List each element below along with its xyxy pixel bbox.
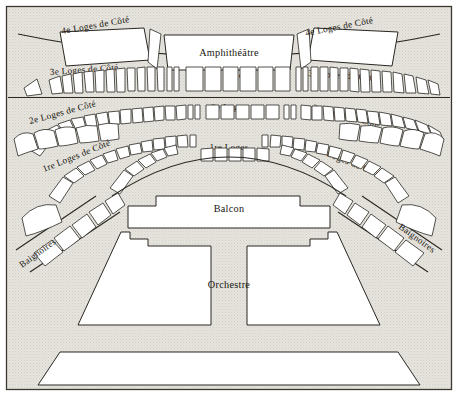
seat-box (153, 138, 165, 150)
seat-box (229, 148, 241, 161)
seat-box (84, 71, 94, 92)
seat-box (360, 69, 370, 92)
seat-box (266, 105, 279, 119)
seat-box (311, 67, 318, 91)
seat-box (330, 67, 338, 91)
seat-box (367, 111, 380, 125)
seat-box (236, 105, 249, 119)
seat-box (177, 135, 188, 147)
seat-box (186, 67, 203, 91)
seat-box (291, 105, 296, 119)
seat-box (106, 69, 115, 92)
balcon-group: Balcon (128, 196, 330, 228)
seat-box (147, 67, 155, 91)
seat-box (174, 67, 179, 91)
seat-box (190, 135, 196, 147)
seat-box (116, 68, 125, 92)
seat-box (262, 135, 268, 147)
seat-box (284, 105, 289, 119)
seat-box (345, 108, 357, 122)
seat-box (275, 67, 290, 91)
seat-box (296, 67, 301, 91)
theatre-seating-plan: 4e Loges de Côté Amphithéâtre 4e Loges d… (0, 0, 458, 396)
seat-box (270, 135, 281, 147)
seat-box (334, 107, 345, 121)
seat-box (195, 105, 200, 119)
label-balcon: Balcon (214, 203, 245, 214)
label-orchestre: Orchestre (208, 279, 250, 290)
seat-box (380, 127, 403, 146)
seat-box (251, 105, 264, 119)
seat-box (240, 67, 256, 91)
seat-box (76, 125, 99, 143)
seat-box (301, 105, 311, 120)
seat-box (339, 123, 360, 141)
seat-box (206, 105, 219, 119)
seat-box (316, 143, 329, 155)
seat-box (221, 105, 234, 119)
seat-box (223, 67, 238, 91)
seat-box (188, 105, 193, 119)
seat-box (393, 72, 404, 93)
seat-box (382, 71, 392, 92)
seat-box (98, 123, 119, 141)
seat-box (55, 127, 78, 146)
seat-box (359, 125, 382, 143)
seat-box (323, 106, 334, 121)
seat-box (258, 67, 273, 91)
seat-box (371, 70, 381, 92)
seat-box (143, 107, 154, 122)
seat-box (379, 112, 392, 126)
seat-box (356, 109, 368, 123)
seat-box (137, 67, 145, 91)
plan-canvas: 4e Loges de Côté Amphithéâtre 4e Loges d… (0, 0, 458, 396)
stage-group (38, 352, 420, 385)
seat-box (340, 68, 348, 91)
seat-box (350, 68, 359, 92)
seat-box (132, 108, 143, 123)
seat-box (141, 140, 153, 152)
seat-box (176, 105, 186, 120)
seat-box (129, 143, 142, 155)
seat-box (205, 67, 221, 91)
seat-box (303, 67, 308, 91)
seat-box (120, 109, 131, 124)
block-stage (38, 352, 420, 385)
seat-box (305, 140, 317, 152)
seat-box (215, 148, 227, 161)
seat-box (127, 68, 135, 91)
seat-box (62, 74, 73, 93)
seat-box (73, 72, 83, 93)
label-amphitheatre: Amphithéâtre (199, 47, 259, 58)
seat-box (157, 67, 164, 91)
seat-box (165, 106, 175, 120)
seat-box (293, 138, 305, 150)
seat-box (320, 67, 328, 91)
seat-box (95, 70, 104, 92)
seat-box (154, 106, 164, 121)
seat-box (167, 67, 172, 91)
seat-box (312, 106, 322, 120)
